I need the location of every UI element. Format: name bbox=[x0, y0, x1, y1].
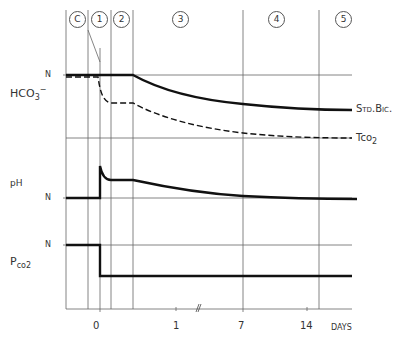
std-bic-curve bbox=[66, 75, 352, 110]
x-tick-1: 1 bbox=[173, 320, 179, 331]
phase-marker-2: 2 bbox=[113, 11, 130, 28]
tco2-curve bbox=[66, 77, 352, 138]
pco2-normal-label: N bbox=[45, 240, 51, 249]
x-ticks bbox=[100, 307, 307, 312]
x-tick-14: 14 bbox=[300, 320, 313, 331]
hco3-label: HCO3− bbox=[10, 85, 46, 102]
std-bic-label: Std.Bic. bbox=[356, 103, 392, 114]
ph-label: pH bbox=[10, 178, 22, 188]
acid-base-diagram bbox=[0, 0, 404, 343]
x-tick-7: 7 bbox=[238, 320, 244, 331]
x-tick-0: 0 bbox=[93, 320, 99, 331]
pco2-curve bbox=[66, 245, 352, 276]
phase-marker-3: 3 bbox=[172, 11, 189, 28]
hco3-normal-label: N bbox=[45, 70, 51, 79]
phase1-leader bbox=[88, 30, 100, 62]
pco2-label: Pco2 bbox=[10, 255, 31, 270]
ph-curve bbox=[66, 166, 357, 199]
phase-dividers bbox=[66, 10, 319, 309]
axis-break-icon bbox=[196, 304, 201, 312]
ph-normal-label: N bbox=[45, 193, 51, 202]
phase-marker-4: 4 bbox=[268, 11, 285, 28]
phase-marker-5: 5 bbox=[335, 11, 352, 28]
tco2-label: Tco2 bbox=[356, 132, 377, 146]
phase-marker-1: 1 bbox=[91, 11, 108, 28]
phase-marker-c: C bbox=[69, 11, 86, 28]
x-axis-unit: DAYS bbox=[331, 323, 352, 332]
